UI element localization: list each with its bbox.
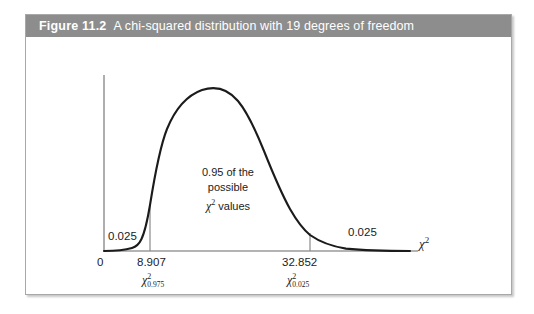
central-annotation-line-2: possible — [176, 180, 280, 195]
x-tick-label-lower: 8.907 — [137, 256, 166, 268]
figure-frame: Figure 11.2 A chi-squared distribution w… — [25, 14, 512, 295]
critical-value-label-lower: χ20.975 — [142, 272, 164, 289]
figure-caption-text: A chi-squared distribution with 19 degre… — [114, 19, 415, 33]
x-axis-title: χ2 — [419, 235, 429, 252]
figure-caption-bar: Figure 11.2 A chi-squared distribution w… — [26, 15, 511, 37]
chart-plot-area: 0.025 0.025 0 8.907 32.852 χ20.975 χ20.0… — [26, 37, 513, 295]
tail-probability-lower: 0.025 — [108, 230, 137, 242]
figure-number: Figure 11.2 — [39, 19, 107, 33]
chi-subscript-upper: 0.025 — [292, 280, 309, 289]
x-tick-label-zero: 0 — [97, 256, 103, 268]
chi-subscript-lower: 0.975 — [147, 280, 164, 289]
central-annotation-line-1: 0.95 of the — [176, 165, 280, 180]
x-tick-label-upper: 32.852 — [282, 256, 317, 268]
central-annotation-values-word: values — [215, 200, 250, 212]
critical-value-label-upper: χ20.025 — [287, 272, 309, 289]
central-area-annotation: 0.95 of the possible χ2 values — [176, 165, 280, 214]
central-annotation-line-3: χ2 values — [176, 195, 280, 214]
axis-chi-superscript: 2 — [425, 235, 430, 245]
tail-probability-upper: 0.025 — [348, 226, 377, 238]
